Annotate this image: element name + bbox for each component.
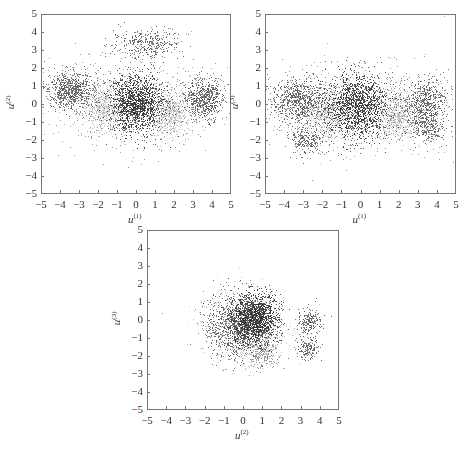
y-tick-label: −4 (245, 170, 261, 181)
x-tick-mark (281, 406, 282, 409)
x-tick-label: 3 (408, 199, 428, 210)
y-tick-mark (147, 392, 150, 393)
y-axis-label: u(3) (110, 311, 123, 325)
x-tick-mark (155, 190, 156, 193)
x-tick-label: −3 (69, 199, 89, 210)
y-tick-mark (147, 356, 150, 357)
y-axis-label: u(2) (4, 95, 17, 109)
x-tick-label: −1 (331, 199, 351, 210)
x-tick-mark (262, 406, 263, 409)
x-tick-mark (320, 406, 321, 409)
x-tick-label: 0 (126, 199, 146, 210)
y-tick-label: 3 (21, 44, 37, 55)
y-tick-mark (41, 50, 44, 51)
x-axis-label: u(1) (353, 212, 367, 225)
x-tick-mark (284, 190, 285, 193)
x-axis-sup: (2) (241, 428, 249, 436)
y-tick-mark (41, 158, 44, 159)
y-tick-label: 1 (21, 80, 37, 91)
y-tick-label: 2 (127, 278, 143, 289)
x-axis-sup: (1) (358, 212, 366, 220)
y-tick-label: 5 (245, 8, 261, 19)
x-tick-label: 0 (351, 199, 371, 210)
y-tick-mark (265, 68, 268, 69)
y-tick-mark (147, 374, 150, 375)
y-tick-label: −1 (127, 332, 143, 343)
y-tick-mark (265, 158, 268, 159)
y-tick-label: 4 (21, 26, 37, 37)
y-tick-mark (147, 284, 150, 285)
y-tick-label: −1 (21, 116, 37, 127)
y-tick-mark (147, 266, 150, 267)
x-tick-label: −1 (107, 199, 127, 210)
x-tick-mark (212, 190, 213, 193)
y-tick-label: 3 (127, 260, 143, 271)
x-tick-mark (341, 190, 342, 193)
scatter-points (42, 15, 230, 193)
x-axis-sup: (1) (134, 212, 142, 220)
y-tick-mark (41, 104, 44, 105)
y-tick-label: −3 (127, 368, 143, 379)
y-tick-label: 5 (127, 224, 143, 235)
y-tick-label: 2 (245, 62, 261, 73)
x-tick-mark (98, 190, 99, 193)
y-tick-label: −1 (245, 116, 261, 127)
y-tick-label: 0 (21, 98, 37, 109)
y-tick-label: −2 (245, 134, 261, 145)
scatter-points (266, 15, 455, 193)
y-tick-mark (265, 104, 268, 105)
x-tick-mark (117, 190, 118, 193)
plot-area (41, 14, 231, 194)
x-tick-mark (243, 406, 244, 409)
x-tick-label: −4 (156, 415, 176, 426)
y-tick-mark (265, 32, 268, 33)
plot-area (265, 14, 456, 194)
x-tick-mark (205, 406, 206, 409)
x-tick-label: 5 (329, 415, 349, 426)
y-tick-mark (147, 338, 150, 339)
x-tick-label: 2 (389, 199, 409, 210)
x-tick-mark (303, 190, 304, 193)
x-tick-label: 2 (164, 199, 184, 210)
x-tick-label: −2 (312, 199, 332, 210)
y-tick-mark (147, 302, 150, 303)
y-tick-label: 1 (127, 296, 143, 307)
x-tick-mark (322, 190, 323, 193)
y-axis-var: u (228, 104, 240, 110)
y-tick-mark (265, 176, 268, 177)
x-tick-label: 0 (233, 415, 253, 426)
x-tick-label: 1 (252, 415, 272, 426)
y-tick-label: −2 (21, 134, 37, 145)
y-tick-label: 3 (245, 44, 261, 55)
x-tick-mark (185, 406, 186, 409)
x-tick-label: −3 (175, 415, 195, 426)
y-axis-var: u (4, 104, 16, 110)
x-tick-label: 4 (427, 199, 447, 210)
y-tick-label: 4 (127, 242, 143, 253)
x-tick-label: −4 (50, 199, 70, 210)
y-tick-mark (41, 140, 44, 141)
x-tick-mark (418, 190, 419, 193)
y-tick-mark (265, 86, 268, 87)
x-tick-mark (136, 190, 137, 193)
x-tick-label: 2 (271, 415, 291, 426)
x-tick-mark (224, 406, 225, 409)
y-tick-mark (41, 176, 44, 177)
x-tick-label: −4 (274, 199, 294, 210)
x-tick-label: 3 (183, 199, 203, 210)
x-tick-mark (437, 190, 438, 193)
x-tick-label: −5 (137, 415, 157, 426)
y-tick-label: −3 (245, 152, 261, 163)
x-tick-label: 1 (145, 199, 165, 210)
y-tick-mark (147, 248, 150, 249)
plot-area (147, 230, 339, 410)
y-tick-label: 5 (21, 8, 37, 19)
x-tick-mark (193, 190, 194, 193)
x-tick-label: −2 (88, 199, 108, 210)
y-axis-sup: (3) (110, 311, 118, 319)
y-tick-label: 4 (245, 26, 261, 37)
x-tick-mark (301, 406, 302, 409)
x-tick-mark (79, 190, 80, 193)
x-tick-label: −5 (31, 199, 51, 210)
y-tick-mark (265, 50, 268, 51)
